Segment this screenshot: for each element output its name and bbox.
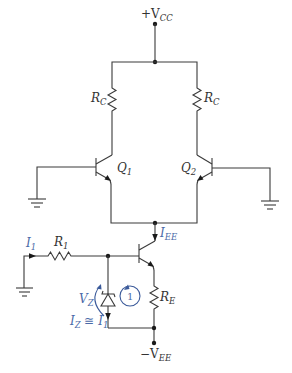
resistor-rc-left: RC [90,86,116,113]
loop-indicator: 1 [120,285,140,307]
transistor-q2: Q2 [181,113,270,201]
vz-curve-arrow [95,286,104,316]
resistor-re: RE [150,270,176,343]
rc-right-zigzag [193,86,201,113]
vz-annotation: VZ [79,284,104,316]
vz-label: VZ [79,292,95,308]
q1-label: Q1 [117,161,132,177]
iz-arrow [105,313,111,320]
vcc-supply: +VCC [141,7,173,64]
i1-arrow [29,253,36,259]
q2-emitter-stub [197,180,198,184]
loop-number: 1 [127,291,133,302]
vee-supply: −VEE [140,341,172,363]
q1-emitter-stub [110,180,111,184]
vee-label: −VEE [140,347,172,363]
resistor-rc-right: RC [193,86,220,113]
vcc-label: +VCC [141,7,173,23]
rc-right-label: RC [203,91,220,107]
zener-triangle [101,294,115,306]
iz-label: IZ ≅ I1 [69,314,108,330]
i1-label: I1 [25,236,36,252]
input-wire [24,256,46,288]
resistor-r1: R1 [46,235,73,260]
transistor-q1: Q1 [37,113,132,199]
vz-arrowhead [97,284,102,290]
ground-q1 [28,199,46,207]
q2-label: Q2 [181,161,196,177]
q2-collector [197,155,212,164]
ground-input [16,288,33,296]
q3-emitter-stub [153,266,154,270]
re-zigzag [150,284,158,311]
q2-base-wire [212,168,270,201]
rc-left-label: RC [90,91,107,107]
r1-label: R1 [53,235,68,251]
rc-left-zigzag [108,86,116,113]
re-label: RE [159,290,176,306]
vee-terminal [152,341,156,345]
emitter-tail-wire [111,184,197,223]
q1-base-wire [37,167,96,199]
r1-zigzag [46,252,73,260]
zener-diode [101,256,115,328]
circuit-diagram: +VCC RC RC Q1 Q2 [0,0,292,373]
current-source-transistor: IEE [139,223,178,270]
ground-q2 [261,201,279,209]
iee-arrow [152,234,158,241]
bottom-junction [152,326,156,330]
q3-collector [139,241,155,250]
q1-collector [96,155,112,164]
iee-label: IEE [159,226,178,242]
top-rail [112,62,197,86]
